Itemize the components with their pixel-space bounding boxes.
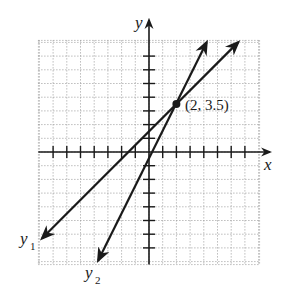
y1-line — [42, 42, 238, 238]
y2-line-label: y 2 — [83, 263, 101, 286]
y1-line-label: y 1 — [18, 229, 36, 252]
svg-text:y: y — [83, 263, 93, 282]
coordinate-plane: y x (2, 3.5) y 1 y 2 — [0, 0, 281, 292]
svg-text:y: y — [18, 229, 28, 248]
intersection-label: (2, 3.5) — [185, 97, 229, 114]
y-axis-label: y — [133, 13, 143, 32]
svg-text:1: 1 — [30, 240, 36, 252]
intersection-point — [172, 100, 180, 108]
svg-text:2: 2 — [95, 274, 101, 286]
intersection-dot — [172, 100, 180, 108]
x-axis-label: x — [263, 155, 272, 174]
axes — [38, 20, 270, 265]
graph-figure: y x (2, 3.5) y 1 y 2 — [0, 0, 281, 292]
